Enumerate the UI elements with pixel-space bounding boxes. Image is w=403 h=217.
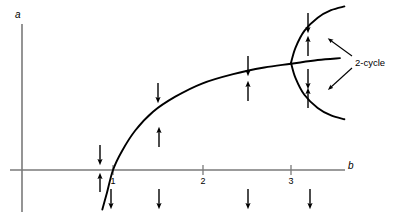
x-tick-label-3: 3 [289, 177, 294, 186]
two-cycle-label: 2-cycle [355, 58, 385, 68]
pointer-to-lower-branch-icon [330, 68, 352, 88]
curve-two-cycle-lower-branch [291, 63, 344, 119]
x-tick-label-2: 2 [201, 177, 206, 186]
annotation-pointers [330, 40, 352, 88]
pointer-to-upper-branch-icon [330, 40, 352, 56]
curve-fixed-point-branch [102, 58, 340, 209]
curve-two-cycle-upper-branch [291, 6, 344, 62]
x-axis-label: b [348, 161, 354, 171]
y-axis-label: a [15, 10, 21, 20]
bifurcation-diagram: a b 123 2-cycle [0, 0, 403, 217]
x-tick-label-1: 1 [111, 177, 116, 186]
